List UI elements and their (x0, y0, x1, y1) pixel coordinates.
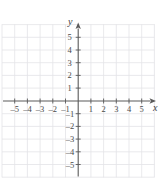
y-tick-label-neg1: –1 (64, 110, 76, 119)
coordinate-grid-figure: y x –5 –4 –3 –2 –1 1 2 3 4 5 5 4 3 2 1 –… (0, 0, 164, 181)
x-axis-label: x (153, 103, 157, 113)
x-tick-label-5: 5 (136, 105, 147, 114)
x-axis (3, 98, 156, 103)
y-tick-label-neg2: –2 (64, 122, 76, 131)
y-tick-label-3: 3 (64, 59, 75, 68)
x-tick-label-neg5: –5 (9, 105, 21, 114)
x-tick-label-neg4: –4 (21, 105, 33, 114)
x-tick-label-1: 1 (85, 105, 96, 114)
x-tick-label-neg3: –3 (34, 105, 46, 114)
x-tick-label-3: 3 (111, 105, 122, 114)
x-tick-label-neg2: –2 (47, 105, 59, 114)
x-tick-label-4: 4 (124, 105, 135, 114)
y-tick-label-neg4: –4 (64, 148, 76, 157)
y-tick-label-4: 4 (64, 46, 75, 55)
y-tick-label-1: 1 (64, 84, 75, 93)
y-tick-label-2: 2 (64, 71, 75, 80)
y-axis-arrowhead (76, 23, 81, 30)
y-axis-label: y (68, 17, 72, 27)
y-tick-label-neg3: –3 (64, 135, 76, 144)
y-tick-label-5: 5 (64, 33, 75, 42)
y-tick-label-neg5: –5 (64, 161, 76, 170)
graph-canvas (0, 0, 164, 181)
x-tick-label-2: 2 (98, 105, 109, 114)
y-axis (76, 23, 81, 177)
